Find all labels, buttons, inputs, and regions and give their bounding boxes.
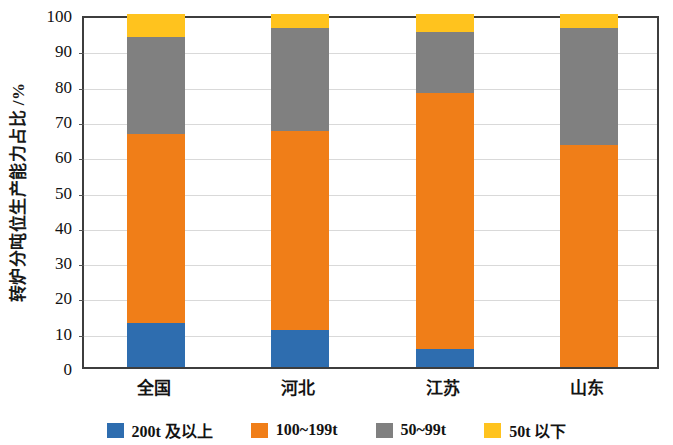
bar-segment[interactable] [416, 14, 474, 32]
bar-segment[interactable] [560, 14, 618, 28]
y-axis-title-container: 转炉分吨位生产能力占比 /% [0, 0, 34, 385]
bar-segment[interactable] [271, 28, 329, 130]
bar-河北[interactable] [271, 14, 329, 367]
bar-segment[interactable] [127, 323, 185, 367]
x-axis-tick-labels: 全国河北江苏山东 [82, 374, 659, 404]
bar-segment[interactable] [416, 93, 474, 349]
x-tick-label: 江苏 [426, 374, 460, 399]
y-axis-tick-labels: 0102030405060708090100 [34, 16, 78, 369]
legend-item[interactable]: 200t 及以上 [107, 418, 213, 442]
y-tick-label: 30 [55, 255, 72, 272]
stacked-bar-chart: 转炉分吨位生产能力占比 /% 0102030405060708090100 全国… [0, 0, 673, 445]
y-tick-label: 0 [64, 361, 73, 378]
legend-item[interactable]: 50~99t [376, 421, 447, 439]
bar-segment[interactable] [127, 37, 185, 134]
bar-山东[interactable] [560, 14, 618, 367]
bar-segment[interactable] [416, 32, 474, 94]
bar-segment[interactable] [271, 330, 329, 367]
x-tick-label: 山东 [570, 374, 604, 399]
bar-segment[interactable] [271, 14, 329, 28]
y-tick-label: 20 [55, 290, 72, 307]
y-tick-label: 40 [55, 219, 72, 236]
bar-segment[interactable] [416, 349, 474, 367]
legend-label: 50~99t [401, 421, 447, 439]
y-tick-label: 90 [55, 43, 72, 60]
bar-segment[interactable] [560, 145, 618, 367]
y-axis-title: 转炉分吨位生产能力占比 /% [5, 83, 30, 303]
legend-label: 200t 及以上 [132, 418, 213, 442]
y-tick-label: 70 [55, 113, 72, 130]
x-tick-label: 河北 [281, 374, 315, 399]
legend-swatch-icon [107, 423, 124, 438]
legend-label: 100~199t [276, 421, 338, 439]
bar-全国[interactable] [127, 14, 185, 367]
y-tick-label: 10 [55, 325, 72, 342]
bar-group [84, 18, 657, 367]
bar-segment[interactable] [271, 131, 329, 330]
y-tick-label: 50 [55, 184, 72, 201]
legend-swatch-icon [484, 423, 501, 438]
legend-label: 50t 以下 [509, 418, 566, 442]
legend-item[interactable]: 100~199t [251, 421, 338, 439]
bar-segment[interactable] [560, 28, 618, 144]
legend-swatch-icon [251, 423, 268, 438]
legend-swatch-icon [376, 423, 393, 438]
y-tick-label: 80 [55, 78, 72, 95]
bar-segment[interactable] [127, 134, 185, 323]
chart-legend: 200t 及以上100~199t50~99t50t 以下 [0, 418, 673, 442]
bar-segment[interactable] [127, 14, 185, 37]
x-tick-label: 全国 [137, 374, 171, 399]
y-tick-label: 60 [55, 149, 72, 166]
y-tick-label: 100 [47, 8, 73, 25]
plot-area [82, 16, 659, 369]
legend-item[interactable]: 50t 以下 [484, 418, 566, 442]
bar-江苏[interactable] [416, 14, 474, 367]
